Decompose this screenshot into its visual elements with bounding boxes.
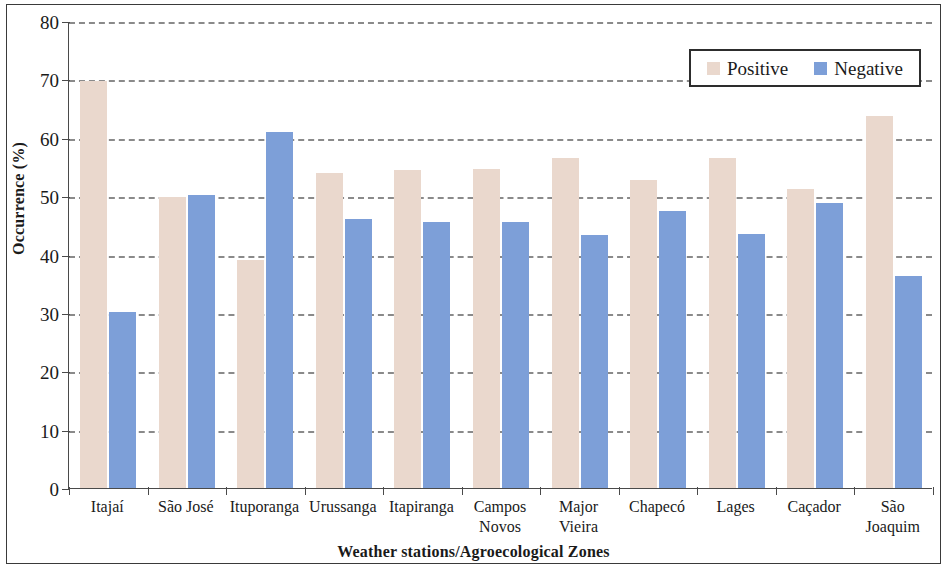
x-axis-label: Ituporanga (225, 497, 304, 517)
x-axis-label: Chapecó (618, 497, 697, 517)
bar-negative (816, 203, 843, 488)
legend-label: Negative (834, 59, 903, 78)
x-axis-label: Urussanga (304, 497, 383, 517)
x-axis-label: São José (147, 497, 226, 517)
y-tick-label-0: 0 (50, 480, 60, 499)
bar-negative (423, 222, 450, 488)
y-tick-label-60: 60 (40, 129, 59, 148)
bars-group (69, 22, 932, 488)
bar-positive (237, 260, 264, 488)
x-tick (540, 487, 541, 495)
bar-positive (394, 170, 421, 488)
x-tick (305, 487, 306, 495)
legend-label: Positive (727, 59, 788, 78)
bar-negative (581, 235, 608, 488)
y-tick-label-70: 70 (40, 71, 59, 90)
legend-swatch-icon (707, 62, 720, 75)
x-tick (854, 487, 855, 495)
x-axis-label: Lages (696, 497, 775, 517)
bar-positive (80, 81, 107, 488)
legend-item-negative: Negative (814, 59, 903, 78)
legend-item-positive: Positive (707, 59, 788, 78)
y-tick-label-80: 80 (40, 13, 59, 32)
chart-legend: PositiveNegative (689, 49, 921, 87)
bar-negative (188, 195, 215, 488)
x-tick (462, 487, 463, 495)
x-tick (148, 487, 149, 495)
bar-negative (109, 312, 136, 488)
x-axis-label: Caçador (775, 497, 854, 517)
x-axis-label: Campos Novos (461, 497, 540, 537)
x-tick (776, 487, 777, 495)
x-axis-label: São Joaquim (853, 497, 932, 537)
x-tick (226, 487, 227, 495)
legend-swatch-icon (814, 62, 827, 75)
bar-positive (787, 189, 814, 488)
bar-negative (659, 211, 686, 488)
x-axis-title: Weather stations/Agroecological Zones (0, 543, 947, 561)
y-tick-label-30: 30 (40, 304, 59, 323)
bar-negative (738, 234, 765, 488)
y-tick-label-10: 10 (40, 421, 59, 440)
y-tick-label-40: 40 (40, 246, 59, 265)
chart-figure: Occurrence (%) 80706050403020100 ItajaíS… (0, 0, 947, 571)
x-tick (383, 487, 384, 495)
bar-negative (895, 276, 922, 488)
bar-negative (345, 219, 372, 488)
x-axis-label: Itapiranga (382, 497, 461, 517)
bar-positive (473, 169, 500, 488)
bar-positive (159, 197, 186, 488)
bar-positive (552, 158, 579, 488)
x-axis-label: Major Vieira (539, 497, 618, 537)
bar-positive (866, 116, 893, 488)
y-tick-label-50: 50 (40, 188, 59, 207)
x-tick (697, 487, 698, 495)
x-tick (69, 487, 70, 495)
x-tick (619, 487, 620, 495)
x-axis-label: Itajaí (68, 497, 147, 517)
bar-negative (502, 222, 529, 488)
bar-positive (630, 180, 657, 488)
bar-negative (266, 132, 293, 488)
y-axis-title: Occurrence (%) (10, 142, 28, 255)
y-tick-label-20: 20 (40, 363, 59, 382)
bar-positive (709, 158, 736, 488)
x-tick (933, 487, 934, 495)
bar-positive (316, 173, 343, 488)
plot-area: 80706050403020100 (68, 22, 932, 489)
